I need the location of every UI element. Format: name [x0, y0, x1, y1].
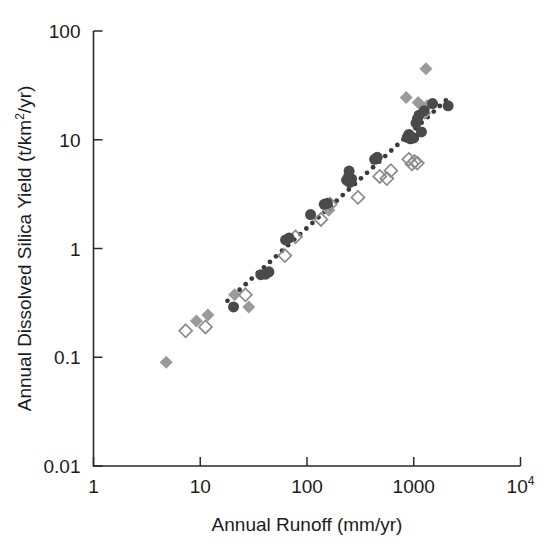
data-point-filled-circle	[284, 232, 295, 243]
x-tick-label-2: 100	[291, 476, 323, 497]
data-point-filled-diamond	[242, 300, 255, 313]
figure-container: 0.010.11101001101001000104 Annual Runoff…	[0, 0, 554, 554]
axis-spines	[94, 31, 521, 466]
data-point-filled-circle	[228, 301, 239, 312]
data-points	[160, 62, 454, 369]
trend-dot	[304, 226, 309, 231]
data-point-filled-diamond	[160, 356, 173, 369]
data-point-filled-circle	[416, 126, 427, 137]
scatter-plot: 0.010.11101001101001000104 Annual Runoff…	[0, 0, 554, 554]
data-point-filled-diamond	[419, 62, 432, 75]
data-point-open-diamond	[351, 191, 364, 204]
tick-marks	[94, 31, 521, 466]
data-point-filled-circle	[427, 98, 438, 109]
trend-dot	[431, 109, 436, 114]
x-axis-title: Annual Runoff (mm/yr)	[212, 514, 403, 535]
x-tick-label-4: 104	[507, 474, 535, 497]
data-point-filled-circle	[346, 174, 357, 185]
data-point-filled-diamond	[201, 308, 214, 321]
x-tick-label-3: 1000	[393, 476, 435, 497]
trend-dot	[340, 193, 345, 198]
data-point-open-diamond	[314, 213, 327, 226]
y-axis-title: Annual Dissolved Silica Yield (t/km2/yr)	[13, 86, 35, 412]
trend-dot	[395, 143, 400, 148]
trend-dot	[383, 154, 388, 159]
trend-dot	[243, 282, 248, 287]
trend-dot	[268, 259, 273, 264]
axes-frame	[94, 31, 521, 466]
y-tick-label-2: 1	[70, 239, 81, 260]
trend-dot	[437, 104, 442, 109]
trend-dot	[371, 165, 376, 170]
trend-dot	[225, 298, 230, 303]
x-tick-label-0: 1	[88, 476, 99, 497]
y-tick-label-1: 0.1	[54, 347, 80, 368]
trend-dot	[274, 254, 279, 259]
data-point-filled-circle	[322, 198, 333, 209]
trend-dot	[310, 221, 315, 226]
data-point-filled-circle	[263, 266, 274, 277]
data-point-filled-circle	[305, 209, 316, 220]
data-point-filled-diamond	[400, 91, 413, 104]
y-tick-label-3: 10	[59, 130, 80, 151]
data-point-filled-circle	[372, 152, 383, 163]
trend-dot	[359, 176, 364, 181]
trend-dot	[249, 276, 254, 281]
data-point-open-diamond	[373, 170, 386, 183]
x-tick-label-1: 10	[190, 476, 211, 497]
y-tick-label-0: 0.01	[44, 456, 81, 477]
data-point-open-diamond	[179, 324, 192, 337]
trend-dot	[389, 148, 394, 153]
data-point-filled-circle	[443, 100, 454, 111]
data-point-filled-circle	[419, 105, 430, 116]
y-tick-label-4: 100	[49, 21, 81, 42]
trend-dot	[365, 170, 370, 175]
